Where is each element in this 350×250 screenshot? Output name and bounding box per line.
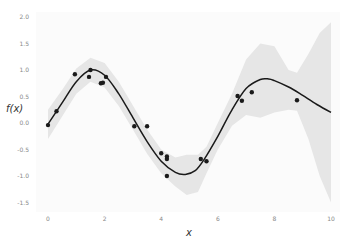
observation-point — [199, 157, 203, 161]
observation-point — [132, 124, 136, 128]
observation-point — [88, 68, 92, 72]
observation-point — [165, 174, 169, 178]
y-axis-label: f(x) — [6, 103, 23, 114]
observation-point — [250, 90, 254, 94]
observation-point — [73, 72, 77, 76]
observation-point — [145, 124, 149, 128]
observation-point — [46, 123, 50, 127]
y-tick-label: 1.5 — [19, 40, 29, 47]
observation-point — [159, 151, 163, 155]
y-tick-label: 0.5 — [19, 93, 29, 100]
y-tick-label: -0.5 — [17, 146, 29, 153]
observation-point — [240, 99, 244, 103]
x-tick-label: 4 — [159, 215, 163, 222]
gp-regression-chart: 2.01.51.00.50.0-0.5-1.0-1.5 0246810 f(x)… — [0, 0, 350, 250]
x-tick-label: 0 — [46, 215, 50, 222]
x-tick-label: 10 — [327, 215, 335, 222]
observation-point — [235, 94, 239, 98]
observation-point — [204, 159, 208, 163]
observation-point — [295, 98, 299, 102]
observation-point — [87, 75, 91, 79]
y-tick-label: -1.5 — [17, 199, 29, 206]
observation-point — [165, 157, 169, 161]
observation-point — [104, 75, 108, 79]
y-tick-label: 1.0 — [19, 66, 29, 73]
y-tick-label: 0.0 — [19, 119, 29, 126]
x-axis-ticks: 0246810 — [46, 215, 335, 222]
observation-point — [101, 81, 105, 85]
observation-point — [54, 109, 58, 113]
x-tick-label: 2 — [103, 215, 107, 222]
x-axis-label: x — [185, 227, 192, 238]
y-tick-label: 2.0 — [19, 13, 29, 20]
x-tick-label: 6 — [216, 215, 220, 222]
y-tick-label: -1.0 — [17, 172, 29, 179]
x-tick-label: 8 — [272, 215, 276, 222]
